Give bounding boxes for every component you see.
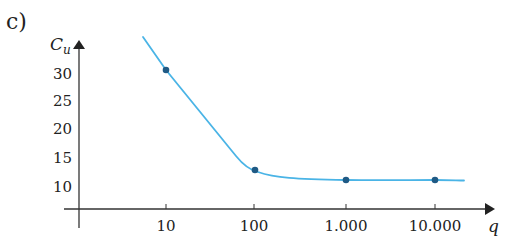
x-axis-arrow-icon [485,203,495,215]
y-tick-label: 10 [53,178,72,196]
y-tick-label: 30 [53,65,72,83]
x-tick-labels: 10 100 1.000 10.000 [156,217,461,235]
chart-figure: c) Cu 30 25 20 15 10 q 10 100 1.000 10.0… [0,0,506,252]
data-points [163,67,439,184]
y-tick-label: 25 [53,92,72,110]
y-axis-label: Cu [50,34,71,57]
x-axis-label: q [488,216,499,236]
data-point [163,67,170,74]
y-axis-arrow-icon [73,40,85,49]
x-tick-label: 1.000 [325,217,368,235]
data-point [252,167,259,174]
data-point [343,177,350,184]
y-tick-label: 20 [53,120,72,138]
y-tick-label: 15 [53,149,72,167]
x-tick-label: 100 [240,217,269,235]
panel-label: c) [6,9,27,34]
data-curve [143,37,464,181]
x-tick-label: 10.000 [409,217,462,235]
x-tick-label: 10 [156,217,175,235]
y-tick-labels: 30 25 20 15 10 [53,65,72,196]
data-point [432,177,439,184]
